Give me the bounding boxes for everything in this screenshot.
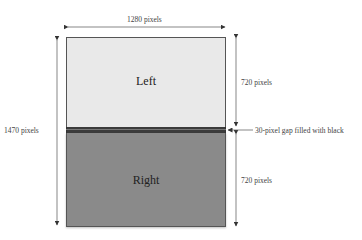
- total-height-label: 1470 pixels: [4, 126, 39, 135]
- gap-label: 30-pixel gap filled with black: [255, 126, 344, 135]
- width-label: 1280 pixels: [127, 15, 162, 24]
- top-height-label: 720 pixels: [241, 78, 272, 87]
- dimension-arrows: [0, 0, 362, 240]
- bottom-height-label: 720 pixels: [241, 176, 272, 185]
